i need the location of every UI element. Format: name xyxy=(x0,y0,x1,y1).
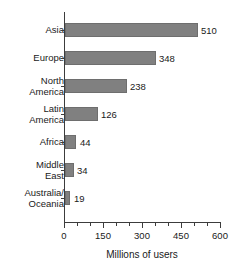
x-axis-tick-major xyxy=(64,223,65,228)
x-axis-tick-minor xyxy=(194,223,195,226)
category-label: North America xyxy=(2,76,64,97)
x-axis-tick-major xyxy=(142,223,143,228)
bar-row: Asia 510 xyxy=(0,16,246,44)
bar xyxy=(65,163,74,177)
category-label: Australia/ Oceania xyxy=(2,188,64,209)
bar xyxy=(65,107,98,121)
category-label: Europe xyxy=(2,53,64,64)
x-axis-tick-label: 0 xyxy=(61,230,66,241)
bar xyxy=(65,23,198,37)
category-label: Latin America xyxy=(2,104,64,125)
x-axis-tick-label: 300 xyxy=(134,230,150,241)
bar xyxy=(65,79,127,93)
x-axis-tick-label: 150 xyxy=(95,230,111,241)
y-axis-tick xyxy=(61,30,64,31)
plot-area: Asia 510 Europe 348 North America 238 La… xyxy=(0,0,246,276)
x-axis-tick-major xyxy=(103,223,104,228)
y-axis-tick xyxy=(61,114,64,115)
x-axis-tick-label: 600 xyxy=(212,230,228,241)
bar-row: Latin America 126 xyxy=(0,100,246,128)
bar-row: Europe 348 xyxy=(0,44,246,72)
x-axis-title: Millions of users xyxy=(0,249,246,260)
y-axis-tick xyxy=(61,198,64,199)
bar-row: Australia/ Oceania 19 xyxy=(0,184,246,212)
y-axis-tick xyxy=(61,142,64,143)
x-axis-tick-minor xyxy=(90,223,91,226)
category-label: Africa xyxy=(2,137,64,148)
bar-row: Africa 44 xyxy=(0,128,246,156)
category-label: Middle East xyxy=(2,160,64,181)
y-axis-tick xyxy=(61,86,64,87)
x-axis-tick-minor xyxy=(207,223,208,226)
x-axis-tick-minor xyxy=(116,223,117,226)
bar-value-label: 238 xyxy=(130,81,146,92)
bar xyxy=(65,191,70,205)
bar-chart: Asia 510 Europe 348 North America 238 La… xyxy=(0,0,246,276)
bar-value-label: 126 xyxy=(101,109,117,120)
bar xyxy=(65,51,156,65)
x-axis-tick-minor xyxy=(168,223,169,226)
x-axis-tick-minor xyxy=(77,223,78,226)
bar xyxy=(65,135,76,149)
bar-row: Middle East 34 xyxy=(0,156,246,184)
x-axis-tick-minor xyxy=(129,223,130,226)
x-axis-tick-label: 450 xyxy=(173,230,189,241)
bar-row: North America 238 xyxy=(0,72,246,100)
bar-value-label: 44 xyxy=(80,137,91,148)
x-axis-tick-major xyxy=(220,223,221,228)
x-axis-tick-minor xyxy=(155,223,156,226)
bar-value-label: 34 xyxy=(77,165,88,176)
y-axis-tick xyxy=(61,170,64,171)
bar-value-label: 510 xyxy=(201,25,217,36)
bar-value-label: 348 xyxy=(159,53,175,64)
y-axis-tick xyxy=(61,58,64,59)
bar-value-label: 19 xyxy=(74,193,85,204)
category-label: Asia xyxy=(2,25,64,36)
x-axis-tick-major xyxy=(181,223,182,228)
